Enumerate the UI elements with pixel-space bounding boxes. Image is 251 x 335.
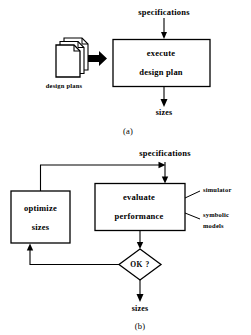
panel-a-sizes-label: sizes — [156, 109, 173, 117]
annotation-symbolic: symbolic — [203, 212, 229, 219]
figure-vector-layer — [0, 0, 251, 335]
design-plans-label: design plans — [46, 83, 83, 90]
annotation-models: models — [203, 223, 224, 230]
panel-b-optimize-box — [11, 191, 70, 243]
panel-b-caption: (b) — [135, 322, 146, 331]
panel-a-execute-line-1: execute — [147, 49, 175, 58]
annotation-simulator: simulator — [203, 187, 232, 194]
panel-b-evaluate-line-2: performance — [115, 212, 164, 221]
panel-b-feedback-loop — [27, 244, 119, 265]
panel-b-annotation-leaders — [185, 191, 200, 219]
panel-b-evaluate-box — [95, 184, 185, 231]
panel-a-output-arrow — [161, 87, 168, 108]
panel-a-block-arrow — [88, 51, 107, 66]
panel-b-evaluate-to-decision-arrow — [137, 231, 143, 250]
panel-a-specifications-arrow — [161, 18, 167, 39]
panel-b-specifications-label: specifications — [139, 149, 190, 158]
panel-b-evaluate-line-1: evaluate — [123, 193, 155, 202]
panel-b-output-arrow — [137, 280, 144, 302]
panel-b-optimize-line-2: sizes — [32, 223, 50, 232]
panel-a-execute-box — [113, 40, 210, 87]
figure-root: specifications execute design plan desig… — [0, 0, 251, 335]
panel-a-specifications-label: specifications — [138, 8, 189, 17]
panel-a-caption: (a) — [123, 127, 133, 136]
panel-b-decision-label: OK ? — [130, 261, 150, 269]
panel-a-execute-line-2: design plan — [139, 68, 183, 77]
panel-b-sizes-label: sizes — [132, 305, 149, 313]
panel-b-optimize-line-1: optimize — [24, 204, 57, 213]
design-plans-stack-icon — [56, 38, 88, 77]
